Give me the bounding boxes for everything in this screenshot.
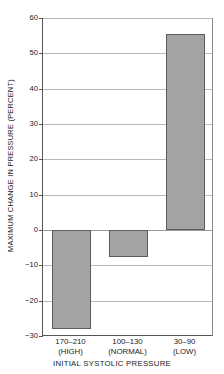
x-axis-title: INITIAL SYSTOLIC PRESSURE bbox=[0, 359, 224, 368]
x-axis-category-range: 170–210 bbox=[55, 337, 85, 347]
bar bbox=[166, 34, 205, 230]
y-axis-tick-label: −10 bbox=[16, 262, 38, 270]
y-axis-tick-mark bbox=[39, 230, 43, 231]
plot-area bbox=[42, 18, 213, 336]
bar-chart: MAXIMUM CHANGE IN PRESSURE (PERCENT) 605… bbox=[0, 0, 224, 374]
y-axis-tick-mark bbox=[39, 265, 43, 266]
y-axis-tick-label: 20 bbox=[16, 156, 38, 164]
y-axis-tick-mark bbox=[39, 195, 43, 196]
bar bbox=[52, 230, 91, 329]
y-axis-tick-mark bbox=[39, 89, 43, 90]
y-axis-tick-mark bbox=[39, 18, 43, 19]
y-axis-tick-labels: 6050403020100−10−20−30 bbox=[18, 0, 40, 374]
x-axis-category-label: 30–90(LOW) bbox=[173, 337, 196, 357]
bar bbox=[109, 230, 148, 257]
y-axis-tick-label: 40 bbox=[16, 85, 38, 93]
y-axis-tick-label: 0 bbox=[16, 226, 38, 234]
y-axis-tick-label: −20 bbox=[16, 297, 38, 305]
y-axis-tick-label: 10 bbox=[16, 191, 38, 199]
y-axis-tick-label: 50 bbox=[16, 50, 38, 58]
y-axis-tick-label: 30 bbox=[16, 120, 38, 128]
x-axis-category-label: 100–130(NORMAL) bbox=[108, 337, 147, 357]
y-axis-tick-mark bbox=[39, 159, 43, 160]
x-axis-category-qualifier: (NORMAL) bbox=[108, 347, 147, 357]
x-axis-category-range: 100–130 bbox=[108, 337, 147, 347]
x-axis-category-qualifier: (LOW) bbox=[173, 347, 196, 357]
y-axis-title-text: MAXIMUM CHANGE IN PRESSURE (PERCENT) bbox=[6, 79, 15, 252]
y-axis-tick-mark bbox=[39, 53, 43, 54]
gridline bbox=[43, 18, 212, 19]
x-axis-category-label: 170–210(HIGH) bbox=[55, 337, 85, 357]
y-axis-tick-mark bbox=[39, 301, 43, 302]
y-axis-tick-mark bbox=[39, 124, 43, 125]
y-axis-tick-label: −30 bbox=[16, 332, 38, 340]
x-axis-category-range: 30–90 bbox=[173, 337, 196, 347]
x-axis-category-qualifier: (HIGH) bbox=[55, 347, 85, 357]
y-axis-tick-label: 60 bbox=[16, 14, 38, 22]
